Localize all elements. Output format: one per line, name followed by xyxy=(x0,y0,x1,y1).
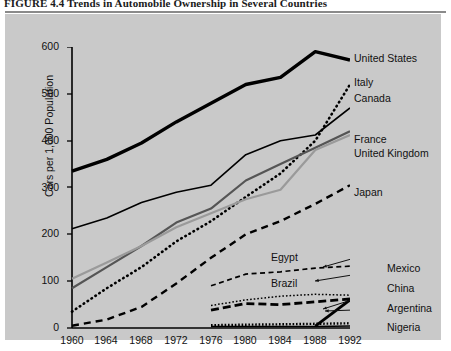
title-divider xyxy=(5,11,446,13)
leader-arrow-argentina xyxy=(323,306,327,309)
series-label-japan: Japan xyxy=(354,186,383,198)
series-label-france: France xyxy=(354,133,387,145)
series-line-mexico xyxy=(211,299,350,310)
y-tick-label-500: 500 xyxy=(25,87,59,99)
figure-title: FIGURE 4.4 Trends in Automobile Ownershi… xyxy=(4,0,327,9)
x-tick-label-1992: 1992 xyxy=(330,334,370,346)
series-line-argentina xyxy=(315,300,350,326)
series-label-argentina: Argentina xyxy=(387,302,432,314)
x-tick-label-1984: 1984 xyxy=(260,334,300,346)
leader-arrow-mexico xyxy=(323,264,327,267)
series-label-egypt: Egypt xyxy=(271,251,298,263)
series-label-mexico: Mexico xyxy=(387,262,420,274)
x-tick-label-1988: 1988 xyxy=(295,334,335,346)
x-tick-label-1980: 1980 xyxy=(225,334,265,346)
y-tick-label-600: 600 xyxy=(25,40,59,52)
series-label-nigeria: Nigeria xyxy=(387,321,420,333)
leader-line-mexico xyxy=(323,250,350,267)
series-line-italy xyxy=(72,85,350,312)
series-line-japan xyxy=(72,185,350,326)
x-tick-label-1972: 1972 xyxy=(156,334,196,346)
y-tick-label-0: 0 xyxy=(25,321,59,333)
series-line-china xyxy=(211,323,350,325)
series-label-brazil: Brazil xyxy=(271,277,297,289)
series-label-canada: Canada xyxy=(354,92,391,104)
plot-area: Cars per 1,000 Population Year 600 500 4… xyxy=(67,47,350,328)
series-line-nigeria xyxy=(211,326,350,327)
chart-svg xyxy=(67,47,350,332)
series-line-canada xyxy=(72,108,350,229)
x-tick-label-1964: 1964 xyxy=(86,334,126,346)
x-tick-label-1968: 1968 xyxy=(121,334,161,346)
series-label-united-states: United States xyxy=(354,52,417,64)
figure-panel: Cars per 1,000 Population Year 600 500 4… xyxy=(5,14,441,340)
leader-arrow-nigeria xyxy=(325,309,329,312)
y-tick-label-200: 200 xyxy=(25,227,59,239)
leader-line-china xyxy=(315,270,350,281)
y-tick-label-400: 400 xyxy=(25,134,59,146)
series-line-brazil xyxy=(211,294,350,305)
y-tick-label-100: 100 xyxy=(25,274,59,286)
y-tick-label-300: 300 xyxy=(25,181,59,193)
series-label-italy: Italy xyxy=(354,76,373,88)
series-label-united-kingdom: United Kingdom xyxy=(354,147,429,159)
series-line-united-states xyxy=(72,52,350,171)
series-label-china: China xyxy=(387,282,414,294)
